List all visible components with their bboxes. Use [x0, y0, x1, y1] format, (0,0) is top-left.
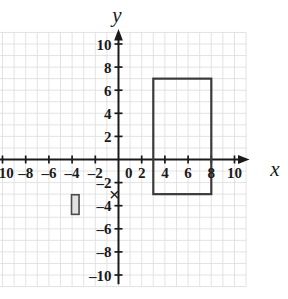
y-tick-label: 4 [104, 106, 112, 122]
annotations-layer: × [109, 184, 120, 205]
origin-label: 0 [125, 165, 133, 181]
x-tick-label: 10 [227, 165, 242, 181]
coordinate-plane-figure: –10–8–6–4–20246810–10–8–6–4–2246810 × y … [0, 0, 288, 299]
y-axis-label: y [110, 3, 122, 27]
x-tick-label: –10 [0, 165, 14, 181]
x-tick-label: –6 [40, 165, 57, 181]
y-tick-label: –10 [88, 268, 112, 284]
y-tick-label: 8 [104, 60, 112, 76]
y-tick-label: –8 [96, 244, 112, 260]
x-axis-arrow-icon [238, 155, 250, 164]
x-tick-label: –8 [17, 165, 33, 181]
x-axis-label: x [269, 157, 280, 181]
y-tick-label: 6 [104, 83, 112, 99]
x-tick-label: 6 [184, 165, 192, 181]
small-rectangle [72, 195, 80, 215]
y-tick-label: 10 [97, 37, 112, 53]
y-tick-label: –6 [96, 221, 113, 237]
y-tick-label: 2 [104, 129, 112, 145]
x-tick-label: 8 [208, 165, 216, 181]
plot-svg: –10–8–6–4–20246810–10–8–6–4–2246810 × y … [0, 0, 288, 299]
x-tick-label: 4 [161, 165, 169, 181]
x-tick-label: 2 [138, 165, 146, 181]
x-mark: × [109, 184, 120, 205]
y-axis-arrow-icon [114, 29, 123, 41]
x-tick-label: –4 [64, 165, 81, 181]
